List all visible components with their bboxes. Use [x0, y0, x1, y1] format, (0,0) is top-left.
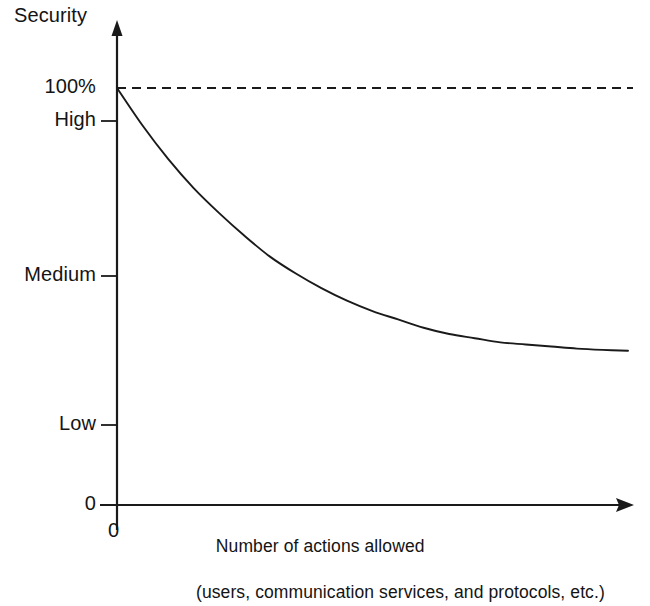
y-axis-arrow-icon: [112, 20, 123, 36]
x-axis-caption: Number of actions allowed (users, commun…: [196, 512, 605, 606]
ytick-label-low: Low: [4, 412, 96, 435]
ytick-label-100-percent: 100%: [4, 75, 96, 98]
y-axis-title: Security: [14, 4, 87, 27]
x-axis: [100, 498, 634, 512]
y-axis-ticks: [101, 121, 117, 425]
ytick-label-high: High: [4, 108, 96, 131]
x-axis-origin-label: 0: [108, 519, 119, 542]
security-curve: [117, 88, 628, 351]
x-axis-caption-line-1: Number of actions allowed: [216, 536, 425, 556]
ytick-label-zero: 0: [4, 492, 96, 515]
x-axis-caption-line-2: (users, communication services, and prot…: [196, 581, 605, 604]
ytick-label-medium: Medium: [4, 263, 96, 286]
y-axis: [112, 20, 123, 530]
